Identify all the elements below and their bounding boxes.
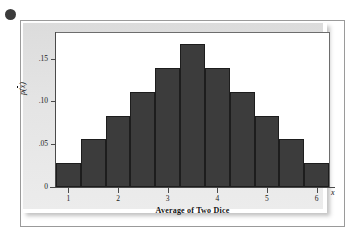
y-tick-mark [51,144,56,145]
x-tick-label: 3 [160,194,176,203]
x-tick-label: 4 [209,194,225,203]
bar [205,68,230,187]
x-tick-label: 1 [60,194,76,203]
x-tick-label: 5 [259,194,275,203]
bar [230,92,255,187]
x-axis-title: Average of Two Dice [55,206,330,215]
bar [56,163,81,187]
y-tick-mark [51,187,56,188]
x-tick-mark [118,188,119,193]
bar [304,163,329,187]
y-axis-ticks: 0.05.10.15 [0,0,52,237]
x-tick-mark [317,188,318,193]
bar [106,116,131,187]
bar [180,44,205,187]
y-axis-title-text: p(x) [18,82,27,95]
x-tick-label: 6 [309,194,325,203]
x-tick-label: 2 [110,194,126,203]
y-axis-line [55,32,56,188]
bar [155,68,180,187]
bar [255,116,280,187]
x-tick-mark [168,188,169,193]
y-tick-label: .05 [22,140,48,148]
x-axis-line [50,187,335,188]
bar [279,139,304,187]
y-tick-label: .10 [22,97,48,105]
y-tick-mark [51,59,56,60]
y-tick-mark [51,101,56,102]
x-tick-mark [267,188,268,193]
figure-root: 0.05.10.15 123456 p(x) Average of Two Di… [0,0,357,237]
x-axis-variable-symbol: x [331,188,335,197]
bar [81,139,106,187]
x-tick-mark [217,188,218,193]
x-tick-mark [68,188,69,193]
y-tick-label: .15 [22,55,48,63]
y-tick-label: 0 [22,183,48,191]
bar [130,92,155,187]
plot-area [56,33,329,187]
